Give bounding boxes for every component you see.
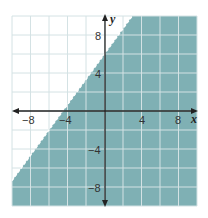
- y-axis-label: y: [108, 12, 116, 26]
- x-tick-label: −4: [59, 114, 72, 126]
- y-tick-label: 4: [95, 68, 101, 80]
- x-tick-label: 8: [175, 114, 181, 126]
- y-tick-label: −8: [88, 182, 101, 194]
- inequality-graph: x y −8 −4 4 8 8 4 −4 −8: [0, 0, 208, 218]
- x-tick-label: −8: [22, 114, 35, 126]
- x-tick-label: 4: [139, 114, 145, 126]
- y-tick-label: −4: [88, 144, 101, 156]
- y-tick-label: 8: [95, 30, 101, 42]
- x-axis-label: x: [190, 112, 197, 126]
